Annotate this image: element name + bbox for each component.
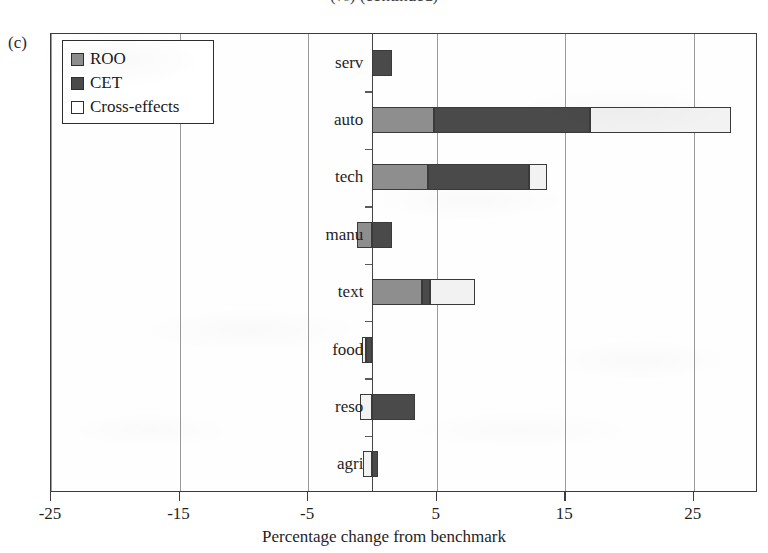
legend-label-cross-effects: Cross-effects: [90, 97, 179, 117]
zero-axis-line: [372, 34, 374, 491]
bar-tech: [51, 164, 756, 190]
gridline-25: [694, 34, 695, 491]
x-tick-25: [693, 492, 694, 501]
x-tick-5: [436, 492, 437, 501]
panel-letter: (c): [8, 33, 27, 53]
x-tick-label--15: -15: [149, 504, 209, 524]
bar-segment-text-roo: [372, 279, 422, 305]
gridline--5: [308, 34, 309, 491]
bar-text: [51, 279, 756, 305]
legend-item-roo: ROO: [71, 47, 213, 71]
legend-swatch-cross-effects-icon: [71, 101, 84, 114]
x-tick-label-25: 25: [663, 504, 723, 524]
x-tick--15: [179, 492, 180, 501]
legend-swatch-roo-icon: [71, 53, 84, 66]
bar-reso: [51, 394, 756, 420]
gridline-5: [437, 34, 438, 491]
x-tick-label-5: 5: [406, 504, 466, 524]
x-axis-title: Percentage change from benchmark: [0, 527, 768, 547]
category-tick-4: [365, 321, 372, 323]
category-tick-6: [365, 436, 372, 438]
bar-segment-agri-cet: [372, 451, 377, 477]
bar-segment-auto-roo: [372, 107, 434, 133]
legend-swatch-cet-icon: [71, 77, 84, 90]
legend-item-cet: CET: [71, 71, 213, 95]
bar-segment-agri-cross-effects: [363, 451, 372, 477]
x-tick-label-15: 15: [534, 504, 594, 524]
bar-segment-reso-cet: [372, 394, 414, 420]
gridline--25: [51, 34, 52, 491]
x-tick--5: [307, 492, 308, 501]
x-tick-label--5: -5: [277, 504, 337, 524]
clipped-title-text: (%) (continued): [0, 0, 768, 6]
gridline-15: [565, 34, 566, 491]
bar-segment-text-cross-effects: [430, 279, 475, 305]
bar-segment-tech-cross-effects: [529, 164, 547, 190]
bar-segment-serv-cet: [372, 50, 391, 76]
category-label-food: food: [241, 341, 363, 358]
bar-segment-food-cet: [366, 337, 372, 363]
category-tick-2: [365, 206, 372, 208]
category-label-manu: manu: [241, 226, 363, 243]
bar-food: [51, 337, 756, 363]
category-tick-0: [365, 91, 372, 93]
legend-label-cet: CET: [90, 73, 122, 93]
x-tick-15: [564, 492, 565, 501]
category-tick-1: [365, 149, 372, 151]
category-label-reso: reso: [241, 398, 363, 415]
bar-segment-auto-cross-effects: [590, 107, 731, 133]
bar-segment-text-cet: [422, 279, 430, 305]
x-tick-label--25: -25: [20, 504, 80, 524]
category-label-text: text: [241, 283, 363, 300]
category-tick-3: [365, 264, 372, 266]
bar-manu: [51, 222, 756, 248]
category-label-agri: agri: [241, 455, 363, 472]
x-tick--25: [50, 492, 51, 501]
category-label-auto: auto: [241, 111, 363, 128]
legend-item-cross-effects: Cross-effects: [71, 95, 213, 119]
bar-segment-auto-cet: [434, 107, 590, 133]
bar-agri: [51, 451, 756, 477]
clipped-figure-title: (%) (continued): [0, 0, 768, 16]
legend-label-roo: ROO: [90, 49, 126, 69]
bar-segment-tech-cet: [428, 164, 530, 190]
category-label-tech: tech: [241, 168, 363, 185]
bar-segment-tech-roo: [372, 164, 427, 190]
category-label-serv: serv: [241, 54, 363, 71]
legend: ROO CET Cross-effects: [62, 40, 214, 124]
category-tick-5: [365, 378, 372, 380]
bar-segment-manu-cet: [372, 222, 391, 248]
